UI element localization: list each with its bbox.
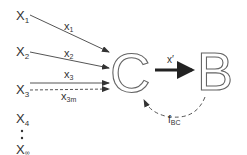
input-x2: X2 [16, 44, 30, 61]
edge-label-x2: x2 [64, 47, 74, 60]
ellipsis-dot [21, 130, 23, 132]
input-x1: X1 [16, 8, 30, 25]
input-x3: X3 [16, 82, 30, 99]
input-x4: X4 [16, 111, 30, 128]
edge-x3m-arrow [30, 89, 109, 90]
diagram-canvas: X1 X2 X3 X4 X∞ x1 x2 x3 x3m C x′ B fBC [0, 0, 247, 155]
feedback-edge-label: fBC [168, 114, 181, 126]
node-c: C [110, 41, 150, 104]
input-x-infinity: X∞ [16, 142, 30, 155]
edge-x1-arrow [30, 15, 109, 52]
forward-edge-label: x′ [167, 54, 174, 65]
feedback-arrow [144, 97, 205, 117]
node-b: B [197, 41, 233, 101]
edge-label-x3m: x3m [61, 90, 76, 103]
ellipsis-dot [21, 137, 23, 139]
edge-label-x3: x3 [64, 68, 74, 81]
edge-label-x1: x1 [64, 20, 74, 33]
